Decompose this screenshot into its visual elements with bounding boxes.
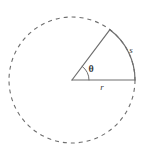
arc-length-label: s xyxy=(129,45,133,55)
central-angle-label: θ xyxy=(88,63,93,74)
geometry-figure: s r θ xyxy=(0,0,147,151)
radius-label: r xyxy=(100,82,104,92)
circle-sector-diagram: s r θ xyxy=(0,0,147,151)
